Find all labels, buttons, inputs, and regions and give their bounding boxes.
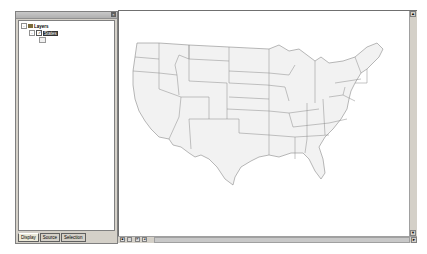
- us-outline: [133, 43, 383, 185]
- layer-symbol-swatch[interactable]: [39, 37, 46, 43]
- layout-view-button[interactable]: □: [127, 237, 132, 242]
- table-of-contents-panel: × - Layers - ✓ States Display Source Sel…: [15, 11, 118, 244]
- scroll-up-button[interactable]: ▲: [410, 11, 416, 17]
- layer-name-selected[interactable]: States: [43, 31, 58, 36]
- collapse-icon[interactable]: -: [29, 30, 35, 36]
- layers-icon: [28, 24, 33, 28]
- data-view-button[interactable]: ◙: [120, 237, 125, 242]
- collapse-icon[interactable]: -: [21, 23, 27, 29]
- toc-tree: - Layers - ✓ States: [18, 20, 115, 231]
- us-states-map[interactable]: [129, 39, 394, 187]
- tree-root-layers[interactable]: - Layers: [21, 23, 49, 29]
- close-icon[interactable]: ×: [111, 12, 116, 17]
- tab-selection[interactable]: Selection: [61, 233, 86, 242]
- scroll-left-button[interactable]: ◄: [142, 237, 147, 242]
- horizontal-scrollbar[interactable]: [154, 237, 410, 243]
- tree-layer-states[interactable]: - ✓ States: [29, 30, 58, 36]
- layers-label: Layers: [34, 24, 49, 29]
- toc-title-bar[interactable]: ×: [16, 12, 117, 19]
- tab-source[interactable]: Source: [40, 233, 60, 242]
- layer-visibility-checkbox[interactable]: ✓: [36, 30, 42, 36]
- map-bottom-bar: ◙ □ ⟳ ◄ ►: [118, 236, 417, 243]
- refresh-button[interactable]: ⟳: [135, 237, 140, 242]
- map-display[interactable]: [118, 10, 417, 240]
- vertical-scrollbar[interactable]: ▲ ▼: [409, 11, 417, 236]
- tab-display[interactable]: Display: [18, 233, 39, 242]
- scroll-right-button[interactable]: ►: [411, 237, 417, 243]
- toc-tabs: Display Source Selection: [18, 233, 86, 242]
